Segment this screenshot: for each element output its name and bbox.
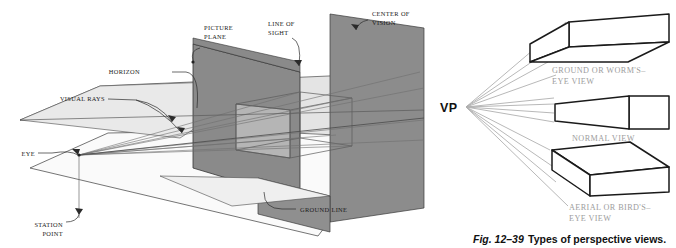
svg-text:EYE VIEW: EYE VIEW	[552, 77, 594, 86]
vp-label: VP	[440, 101, 458, 115]
caption-number: Fig. 12–39	[473, 233, 524, 245]
svg-text:GROUND OR WORM'S–: GROUND OR WORM'S–	[552, 66, 646, 75]
svg-text:AERIAL OR BIRD'S–: AERIAL OR BIRD'S–	[569, 203, 651, 212]
perspective-figure: HORIZON PICTURE PLANE LINE OF SIGHT CENT…	[0, 0, 676, 248]
figure-caption: Fig. 12–39 Types of perspective views.	[473, 233, 666, 245]
svg-text:LINE OF: LINE OF	[268, 20, 295, 27]
svg-text:STATION: STATION	[34, 221, 63, 228]
svg-text:VISION: VISION	[372, 19, 396, 26]
figure-container: HORIZON PICTURE PLANE LINE OF SIGHT CENT…	[0, 0, 676, 248]
normal-view-box	[555, 96, 669, 129]
label-horizon: HORIZON	[109, 68, 140, 75]
label-line-of-sight: LINE OF SIGHT	[268, 20, 295, 36]
caption-title: Types of perspective views.	[528, 233, 666, 245]
normal-view-near-face	[629, 96, 669, 129]
label-ground-line: GROUND LINE	[300, 206, 347, 213]
svg-text:EYE VIEW: EYE VIEW	[569, 214, 611, 223]
label-picture-plane: PICTURE PLANE	[204, 24, 233, 40]
label-birds-eye-view: AERIAL OR BIRD'S– EYE VIEW	[569, 203, 651, 223]
label-normal-view: NORMAL VIEW	[572, 134, 635, 143]
label-eye: EYE	[22, 150, 35, 157]
left-diagram-group: HORIZON PICTURE PLANE LINE OF SIGHT CENT…	[20, 10, 424, 237]
leader-station-point	[66, 215, 79, 222]
label-visual-rays: VISUAL RAYS	[60, 95, 105, 102]
birds-eye-box	[552, 142, 669, 196]
svg-text:SIGHT: SIGHT	[268, 29, 289, 36]
svg-text:CENTER OF: CENTER OF	[372, 10, 410, 17]
label-station-point: STATION POINT	[34, 221, 63, 237]
object-box-face	[236, 104, 290, 158]
label-worms-eye-view: GROUND OR WORM'S– EYE VIEW	[552, 66, 646, 86]
svg-text:POINT: POINT	[42, 230, 63, 237]
svg-text:PICTURE: PICTURE	[204, 24, 233, 31]
worms-eye-box	[530, 14, 669, 62]
label-center-of-vision: CENTER OF VISION	[372, 10, 410, 26]
normal-view-side-face	[555, 96, 629, 129]
right-diagram-group: VP	[440, 14, 669, 223]
rear-vertical-plane	[330, 14, 424, 222]
svg-text:PLANE: PLANE	[204, 33, 226, 40]
